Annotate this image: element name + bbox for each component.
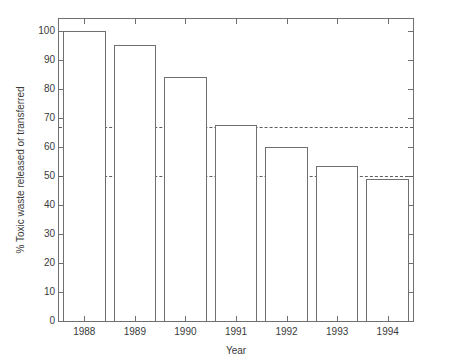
x-axis-tick-label: 1989 xyxy=(124,326,146,337)
x-axis-tick-top xyxy=(135,19,136,24)
x-axis-tick-top xyxy=(84,19,85,24)
bar-1993 xyxy=(316,166,358,321)
x-axis-tick xyxy=(236,316,237,321)
y-axis-tick-right xyxy=(408,89,413,90)
x-axis-tick xyxy=(185,316,186,321)
plot-area: 0102030405060708090100198819891990199119… xyxy=(58,18,414,322)
x-axis-tick-label: 1993 xyxy=(326,326,348,337)
x-axis-tick xyxy=(337,316,338,321)
y-axis-tick-label: 60 xyxy=(44,142,55,152)
x-axis-tick-top xyxy=(337,19,338,24)
bar-1990 xyxy=(164,77,206,321)
y-axis-tick-right xyxy=(408,60,413,61)
x-axis-tick-label: 1990 xyxy=(174,326,196,337)
x-axis-tick xyxy=(287,316,288,321)
y-axis-tick-label: 100 xyxy=(38,26,55,36)
y-axis-tick-label: 30 xyxy=(44,229,55,239)
bar-1992 xyxy=(265,147,307,321)
y-axis-tick-right xyxy=(408,147,413,148)
y-axis-tick-label: 0 xyxy=(49,316,55,326)
x-axis-tick-label: 1991 xyxy=(225,326,247,337)
x-axis-tick-top xyxy=(287,19,288,24)
y-axis-tick-label: 90 xyxy=(44,55,55,65)
x-axis-tick-label: 1992 xyxy=(275,326,297,337)
x-axis-tick xyxy=(388,316,389,321)
x-axis-tick-label: 1988 xyxy=(73,326,95,337)
y-axis-tick xyxy=(59,321,64,322)
y-axis-tick-label: 50 xyxy=(44,171,55,181)
y-axis-title: % Toxic waste released or transferred xyxy=(14,18,28,322)
x-axis-tick-top xyxy=(236,19,237,24)
y-axis-tick-right xyxy=(408,118,413,119)
y-axis-tick-label: 80 xyxy=(44,84,55,94)
y-axis-tick-label: 40 xyxy=(44,200,55,210)
y-axis-tick-label: 20 xyxy=(44,258,55,268)
y-axis-tick-right xyxy=(408,321,413,322)
x-axis-title: Year xyxy=(58,345,414,356)
y-axis-tick-label: 10 xyxy=(44,287,55,297)
x-axis-tick-top xyxy=(185,19,186,24)
y-axis-tick-right xyxy=(408,31,413,32)
bar-1994 xyxy=(366,179,408,321)
y-axis-tick-label: 70 xyxy=(44,113,55,123)
x-axis-tick xyxy=(84,316,85,321)
bar-1988 xyxy=(63,31,105,321)
x-axis-tick-top xyxy=(388,19,389,24)
figure: 0102030405060708090100198819891990199119… xyxy=(0,0,450,360)
x-axis-tick-label: 1994 xyxy=(377,326,399,337)
bar-1991 xyxy=(215,125,257,321)
bar-1989 xyxy=(114,45,156,321)
x-axis-tick xyxy=(135,316,136,321)
